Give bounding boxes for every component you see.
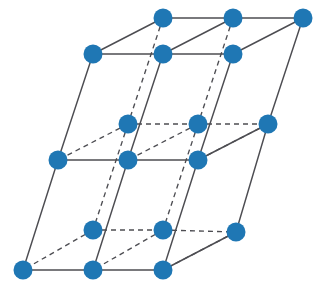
lattice-atom-node: [154, 9, 173, 28]
lattice-atom-node: [84, 261, 103, 280]
lattice-atom-node: [119, 151, 138, 170]
lattice-atom-node: [14, 261, 33, 280]
lattice-atom-node: [119, 115, 138, 134]
lattice-canvas: [0, 0, 327, 300]
lattice-bond-hidden: [163, 230, 236, 232]
lattice-atom-node: [224, 9, 243, 28]
lattice-atom-node: [84, 45, 103, 64]
lattice-atom-node: [227, 223, 246, 242]
lattice-atom-node: [294, 9, 313, 28]
lattice-atom-node: [84, 221, 103, 240]
lattice-bond-visible: [93, 18, 163, 54]
lattice-bond-visible: [58, 54, 93, 160]
lattice-bond-visible: [236, 124, 268, 232]
lattice-atom-node: [154, 45, 173, 64]
lattice-atom-node: [154, 221, 173, 240]
crystal-lattice-figure: [0, 0, 327, 300]
lattice-atom-node: [224, 45, 243, 64]
lattice-atom-node: [189, 115, 208, 134]
lattice-atom-node: [189, 151, 208, 170]
lattice-atom-node: [154, 261, 173, 280]
lattice-bond-visible: [163, 18, 233, 54]
atom-group: [14, 9, 313, 280]
lattice-atom-node: [49, 151, 68, 170]
lattice-atom-node: [259, 115, 278, 134]
